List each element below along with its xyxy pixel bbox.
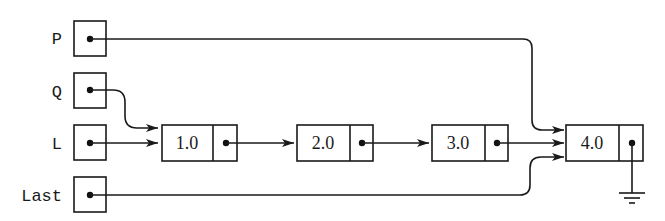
node-value: 4.0	[581, 133, 604, 153]
pointer-label-l: L	[52, 135, 62, 154]
pointer-label-p: P	[52, 30, 62, 49]
pointer-label-last: Last	[21, 187, 62, 206]
arrow-last-to-node4	[90, 157, 564, 195]
node-value: 1.0	[176, 133, 199, 153]
linked-list-diagram: P Q L Last 1.0 2.0 3.0	[0, 0, 665, 221]
node-3: 3.0	[432, 125, 508, 161]
arrow-p-to-node4	[90, 39, 564, 130]
node-1: 1.0	[162, 125, 237, 161]
node-value: 3.0	[447, 133, 470, 153]
pointer-label-q: Q	[52, 83, 62, 102]
node-2: 2.0	[297, 125, 373, 161]
node-value: 2.0	[312, 133, 335, 153]
